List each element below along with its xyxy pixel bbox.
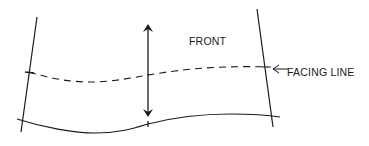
- left-edge-line: [21, 17, 37, 132]
- facing-line-label: FACING LINE: [287, 67, 355, 78]
- right-edge-line: [257, 9, 273, 127]
- front-label: FRONT: [189, 36, 226, 47]
- left-facing-tick: [25, 72, 34, 73]
